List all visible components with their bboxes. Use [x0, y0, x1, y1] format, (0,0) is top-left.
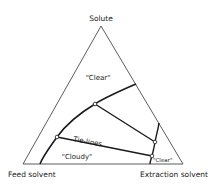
vertex-label-feed-solvent: Feed solvent	[8, 170, 56, 179]
tie-line-upper	[95, 104, 155, 142]
ternary-diagram: Solute Feed solvent Extraction solvent "…	[0, 0, 213, 186]
region-label-clear-upper: "Clear"	[86, 74, 111, 82]
tie-point	[153, 140, 157, 144]
triangle-outline	[23, 26, 183, 164]
tie-lines-label: Tie-lines	[72, 135, 103, 149]
vertex-label-solute: Solute	[89, 14, 113, 23]
vertex-label-extraction-solvent: Extraction solvent	[140, 170, 208, 179]
region-label-clear-lower: "Clear"	[153, 157, 172, 163]
tie-point	[93, 102, 97, 106]
region-label-cloudy: "Cloudy"	[62, 153, 93, 161]
binodal-curve-left	[40, 84, 136, 164]
tie-point	[55, 135, 59, 139]
